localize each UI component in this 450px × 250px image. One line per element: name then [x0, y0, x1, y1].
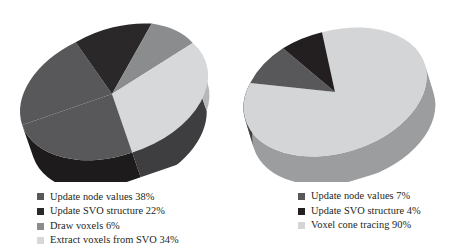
legend-item-label: Draw voxels 6% [50, 219, 120, 234]
legend-swatch-icon [298, 222, 305, 229]
right-pie-area [225, 6, 450, 182]
legend-item-label: Update SVO structure 22% [50, 204, 165, 219]
right-chart-legend: Update node values 7% Update SVO structu… [225, 189, 450, 233]
legend-swatch-icon [298, 208, 305, 215]
legend-item[interactable]: Update SVO structure 4% [298, 204, 450, 219]
legend-swatch-icon [37, 237, 44, 244]
left-chart-legend: Update node values 38% Update SVO struct… [0, 190, 262, 248]
legend-swatch-icon [298, 193, 305, 200]
pie-chart-figure: Update node values 38% Update SVO struct… [0, 0, 450, 250]
legend-item[interactable]: Voxel cone tracing 90% [298, 218, 450, 233]
legend-swatch-icon [37, 193, 44, 200]
left-pie-chart [0, 6, 225, 182]
legend-swatch-icon [37, 223, 44, 230]
legend-item-label: Update node values 7% [311, 189, 410, 204]
legend-swatch-icon [37, 208, 44, 215]
legend-item-label: Voxel cone tracing 90% [311, 218, 411, 233]
left-pie-area [0, 6, 225, 182]
legend-item-label: Update node values 38% [50, 190, 154, 205]
right-pie-chart [225, 6, 450, 182]
legend-item-label: Update SVO structure 4% [311, 204, 421, 219]
left-chart-panel: Update node values 38% Update SVO struct… [0, 0, 225, 250]
legend-item-label: Extract voxels from SVO 34% [50, 233, 179, 248]
legend-item[interactable]: Update node values 7% [298, 189, 450, 204]
right-chart-panel: Update node values 7% Update SVO structu… [225, 0, 450, 250]
